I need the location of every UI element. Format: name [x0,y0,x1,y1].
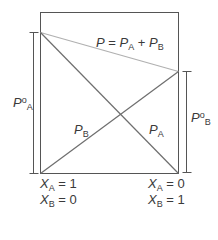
pure-b-pressure-label: PoB [191,111,211,124]
right-xb-label: XB = 1 [148,193,185,206]
pa-line-label: PA [149,123,164,136]
pb-line-label: PB [74,123,89,136]
left-xa-label: XA = 1 [40,177,77,190]
total-pressure-label: P = PA + PB [96,36,164,49]
left-xb-label: XB = 0 [40,193,77,206]
pure-a-pressure-label: PoA [13,96,33,109]
pa-line [41,33,179,174]
right-xa-label: XA = 0 [148,177,185,190]
